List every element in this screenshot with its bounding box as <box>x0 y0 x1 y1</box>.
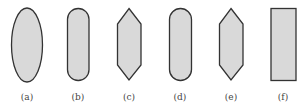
shape-f-rectangle <box>271 9 296 81</box>
shape-d-stadium <box>170 9 192 81</box>
label-e: (e) <box>225 92 237 102</box>
shape-e-hexagon <box>220 9 244 81</box>
shape-c-hexagon <box>118 9 142 81</box>
label-d: (d) <box>174 92 187 102</box>
label-c: (c) <box>123 92 135 102</box>
label-f: (f) <box>278 92 288 102</box>
label-b: (b) <box>72 92 85 102</box>
shapes-diagram: (a) (b) (c) (d) (e) (f) <box>0 0 304 110</box>
shape-b-stadium <box>68 9 90 81</box>
shape-a-ellipse <box>12 8 43 82</box>
label-a: (a) <box>21 92 33 102</box>
